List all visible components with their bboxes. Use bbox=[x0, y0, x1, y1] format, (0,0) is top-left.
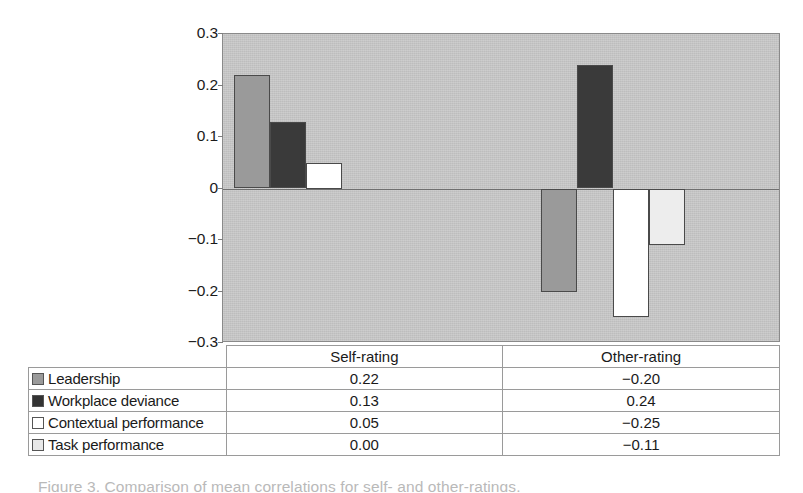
legend-entry-1: Workplace deviance bbox=[29, 390, 227, 412]
legend-label: Workplace deviance bbox=[48, 392, 179, 409]
legend-swatch-icon bbox=[32, 373, 44, 385]
legend-entry-0: Leadership bbox=[29, 368, 227, 390]
value-cell-self: 0.22 bbox=[226, 368, 503, 390]
value-cell-self: 0.00 bbox=[226, 434, 503, 456]
legend-label: Task performance bbox=[48, 436, 164, 453]
y-tick-mark bbox=[218, 291, 223, 292]
value-cell-self: 0.13 bbox=[226, 390, 503, 412]
y-tick-mark bbox=[218, 188, 223, 189]
legend-swatch-icon bbox=[32, 439, 44, 451]
bar bbox=[577, 65, 613, 189]
value-cell-self: 0.05 bbox=[226, 412, 503, 434]
legend-entry-2: Contextual performance bbox=[29, 412, 227, 434]
legend-label: Contextual performance bbox=[48, 414, 204, 431]
y-tick-label: −0.1 bbox=[188, 231, 218, 247]
bar bbox=[541, 189, 577, 292]
y-tick-label: −0.2 bbox=[188, 283, 218, 299]
legend-data-table: Self-ratingOther-ratingLeadership0.22−0.… bbox=[28, 345, 780, 456]
y-tick-mark bbox=[218, 33, 223, 34]
y-tick-label: 0.3 bbox=[197, 25, 218, 41]
bar bbox=[613, 189, 649, 318]
legend-label: Leadership bbox=[48, 370, 120, 387]
bar bbox=[649, 189, 685, 246]
y-tick-mark bbox=[218, 136, 223, 137]
value-cell-other: 0.24 bbox=[503, 390, 780, 412]
legend-swatch-icon bbox=[32, 417, 44, 429]
table-row: Leadership0.22−0.20 bbox=[29, 368, 780, 390]
legend-entry-3: Task performance bbox=[29, 434, 227, 456]
y-tick-label: 0.1 bbox=[197, 128, 218, 144]
table-row: Workplace deviance0.130.24 bbox=[29, 390, 780, 412]
plot-area bbox=[222, 33, 780, 342]
figure-bar-chart-with-data-table: 0.30.20.10−0.1−0.2−0.3 Self-ratingOther-… bbox=[0, 0, 803, 493]
value-cell-other: −0.11 bbox=[503, 434, 780, 456]
table-row: Contextual performance0.05−0.25 bbox=[29, 412, 780, 434]
value-cell-other: −0.20 bbox=[503, 368, 780, 390]
y-axis: 0.30.20.10−0.1−0.2−0.3 bbox=[184, 33, 218, 342]
bar bbox=[306, 163, 342, 189]
y-tick-label: 0 bbox=[209, 180, 218, 196]
table-corner-cell bbox=[29, 346, 227, 368]
y-tick-label: 0.2 bbox=[197, 77, 218, 93]
value-cell-other: −0.25 bbox=[503, 412, 780, 434]
legend-swatch-icon bbox=[32, 395, 44, 407]
bar bbox=[234, 75, 270, 188]
y-tick-mark bbox=[218, 342, 223, 343]
caption-text: Figure 3. Comparison of mean correlation… bbox=[38, 479, 738, 492]
figure-caption-sliver: Figure 3. Comparison of mean correlation… bbox=[38, 479, 738, 492]
table-row: Task performance0.00−0.11 bbox=[29, 434, 780, 456]
y-tick-mark bbox=[218, 85, 223, 86]
table-header-row: Self-ratingOther-rating bbox=[29, 346, 780, 368]
bar-series-container bbox=[223, 34, 779, 341]
column-header-other-rating: Other-rating bbox=[503, 346, 780, 368]
column-header-self-rating: Self-rating bbox=[226, 346, 503, 368]
bar bbox=[270, 122, 306, 189]
y-tick-mark bbox=[218, 239, 223, 240]
